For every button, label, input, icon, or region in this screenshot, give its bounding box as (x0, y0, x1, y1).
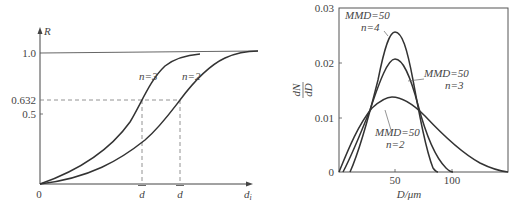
y-label-numerator: dN (290, 83, 302, 97)
y-label-denominator: dD (302, 83, 314, 97)
ytick-001-label: 0.01 (315, 112, 334, 124)
annotation-n4-line2: n=4 (361, 21, 380, 33)
xtick-100-label: 100 (444, 174, 461, 186)
annotation-n2-line2: n=2 (386, 138, 405, 150)
annotation-n3-line1: MMD=50 (423, 67, 469, 79)
label-n2: n=2 (182, 70, 201, 82)
figure: R 1.0 0.632 0.5 0 d d di n=3 n=2 0.03 0.… (0, 0, 514, 208)
annotation-n3-line2: n=3 (445, 79, 464, 91)
xtick-50-label: 50 (390, 174, 402, 186)
curve-n3 (40, 54, 200, 184)
x-axis-label-sub: i (250, 193, 252, 202)
ytick-05-label: 0.5 (22, 108, 36, 120)
y-axis-label: dN dD (290, 82, 314, 98)
right-chart: 0.03 0.02 0.01 0 50 100 D/μm dN dD MMD=5… (290, 2, 508, 200)
label-n3: n=3 (139, 70, 158, 82)
curve-n4 (350, 32, 438, 172)
annotation-n2-line1: MMD=50 (374, 126, 420, 138)
x-axis-arrow-icon (246, 182, 253, 187)
leader-n4 (384, 31, 388, 36)
origin-label: 0 (36, 188, 42, 200)
r-equals-1-line (40, 51, 258, 53)
y-axis-label: R (43, 25, 51, 37)
x-axis-label: D/μm (396, 188, 422, 200)
ytick-0-label: 0 (329, 166, 335, 178)
annotation-n4-line1: MMD=50 (344, 9, 390, 21)
dbar-n2-label: d (177, 188, 183, 200)
ytick-1-label: 1.0 (22, 47, 36, 59)
ytick-0632-label: 0.632 (11, 94, 36, 106)
x-axis-label: di (244, 188, 252, 202)
ytick-002-label: 0.02 (315, 57, 334, 69)
ytick-003-label: 0.03 (315, 2, 335, 14)
left-chart: R 1.0 0.632 0.5 0 d d di n=3 n=2 (11, 25, 258, 202)
dbar-n3-label: d (139, 188, 145, 200)
y-axis-arrow-icon (38, 27, 43, 34)
